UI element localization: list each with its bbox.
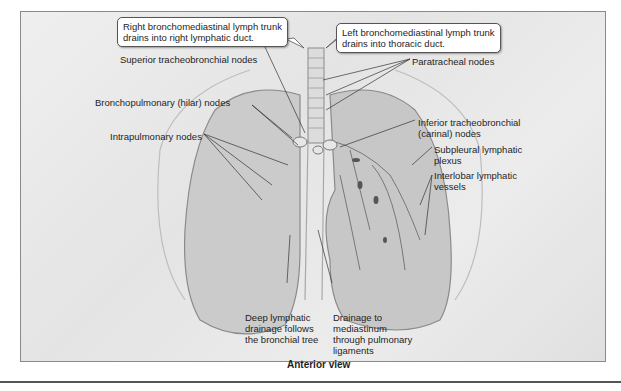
label-mediastinum-drainage: Drainage to mediastinum through pulmonar… [333, 312, 412, 356]
figure-caption: Anterior view [287, 359, 350, 370]
label-inferior-tracheobronchial: Inferior tracheobronchial (carinal) node… [418, 117, 520, 139]
label-interlobar-vessels: Interlobar lymphatic vessels [434, 170, 517, 192]
callout-left-lymph-trunk: Left bronchomediastinal lymph trunk drai… [336, 23, 501, 53]
label-intrapulmonary: Intrapulmonary nodes [110, 131, 202, 142]
label-bronchopulmonary: Bronchopulmonary (hilar) nodes [95, 97, 230, 108]
label-deep-drainage: Deep lymphatic drainage follows the bron… [245, 312, 318, 345]
label-superior-tracheobronchial: Superior tracheobronchial nodes [120, 54, 257, 65]
label-paratracheal: Paratracheal nodes [412, 56, 494, 67]
bottom-divider [0, 381, 621, 383]
right-lung [185, 90, 300, 334]
label-subpleural-plexus: Subpleural lymphatic plexus [434, 144, 522, 166]
callout-right-lymph-trunk: Right bronchomediastinal lymph trunk dra… [117, 17, 288, 47]
trachea [308, 48, 324, 143]
